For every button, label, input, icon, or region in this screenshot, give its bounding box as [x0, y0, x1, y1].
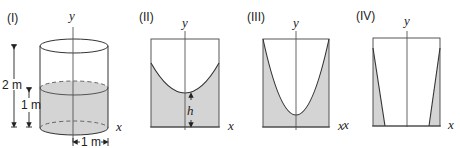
panel-paraboloid-shallow: (II) y x h [139, 10, 234, 133]
panel-label: (IV) [356, 9, 375, 23]
y-axis-label: y [291, 15, 299, 30]
water-fill [40, 81, 108, 135]
x-axis-label: x [115, 119, 122, 134]
total-height-label: 2 m [2, 78, 22, 92]
y-axis-label: y [67, 8, 75, 23]
panel-label: (I) [7, 11, 18, 25]
panel-paraboloid-deep: (III) y x [247, 10, 344, 133]
x-axis-label: x [227, 118, 234, 133]
radius-label: 1 m [81, 135, 101, 148]
cylinder-top [40, 39, 108, 53]
panel-label: (III) [247, 10, 265, 24]
y-axis-label: y [402, 13, 410, 28]
panel-label: (II) [139, 10, 154, 24]
y-axis-label: y [180, 15, 188, 30]
panel-cylinder: (I) y x 2 m 1 m 1 m [2, 8, 122, 148]
x-axis-label-right: x [447, 117, 454, 132]
h-label: h [187, 103, 194, 118]
figure: (I) y x 2 m 1 m 1 m (II) [0, 0, 460, 148]
x-axis-label-left: x [342, 117, 349, 132]
panel-wall-wedges: (IV) y x x [342, 9, 454, 132]
water-height-label: 1 m [21, 98, 41, 112]
